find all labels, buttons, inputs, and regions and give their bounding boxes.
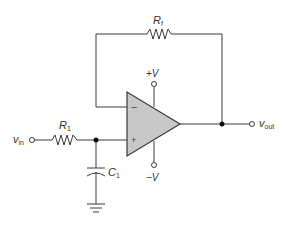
positive-supply-label: +V [146, 68, 160, 79]
junction-dot-output [220, 122, 225, 127]
vplus-terminal [152, 82, 157, 87]
resistor-rf [147, 29, 171, 39]
non-inverting-input-label: + [131, 135, 136, 145]
feedback-wire-right [171, 34, 222, 124]
junction-dot-input [94, 138, 99, 143]
c1-label: C1 [108, 166, 120, 179]
input-terminal [30, 138, 35, 143]
output-terminal [250, 122, 255, 127]
vminus-terminal [152, 163, 157, 168]
vout-label: vout [259, 117, 274, 130]
resistor-r1 [52, 135, 77, 145]
inverting-input-label: − [131, 101, 137, 113]
rf-label: Rf [153, 14, 163, 27]
feedback-wire-left [96, 34, 147, 107]
negative-supply-label: −V [146, 172, 160, 183]
vin-label: vin [13, 133, 24, 146]
circuit-diagram: − + Rf R1 C1 vin vout +V −V [0, 0, 284, 225]
r1-label: R1 [59, 119, 71, 132]
